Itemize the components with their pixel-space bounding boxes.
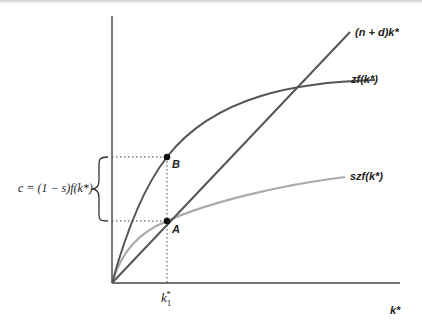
- zf-label: zf(k*): [351, 73, 378, 85]
- point-b-label: B: [172, 158, 180, 170]
- x-tick-sub: 1: [167, 298, 172, 308]
- x-axis-label: k*: [390, 304, 400, 316]
- zf-curve: [112, 80, 375, 283]
- x-tick-k1: k1*: [161, 289, 171, 308]
- point-b: [164, 154, 171, 161]
- diagram-canvas: [0, 0, 422, 327]
- brace: [92, 157, 108, 221]
- depreciation-line: [112, 32, 350, 283]
- line-label: (n + d)k*: [355, 26, 399, 38]
- szf-label: szf(k*): [350, 170, 383, 182]
- point-a: [164, 218, 171, 225]
- point-a-label: A: [172, 223, 180, 235]
- brace-label: c = (1 − s)f(k*): [18, 181, 93, 196]
- x-tick-sup: *: [166, 289, 171, 299]
- szf-curve: [112, 177, 345, 283]
